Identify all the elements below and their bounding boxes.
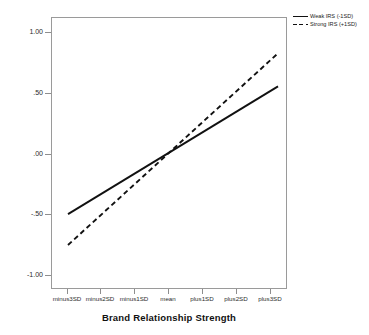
x-tick-mark — [134, 289, 135, 294]
legend-dashed-line-icon — [293, 21, 308, 27]
x-tick-mark — [270, 289, 271, 294]
legend-solid-line-icon — [293, 13, 308, 19]
plot-lines — [52, 18, 286, 288]
interaction-plot-figure: Ad Referral Acceptance 1.00 .50 .00 -.50… — [0, 0, 369, 335]
y-tick-label-2: .50 — [3, 89, 43, 96]
legend-label-weak-irs: Weak IRS (-1SD) — [310, 12, 353, 20]
y-tick-label-4: -.50 — [3, 210, 43, 217]
x-tick-mark — [236, 289, 237, 294]
legend-item-weak-irs: Weak IRS (-1SD) — [293, 12, 357, 20]
x-tick-mark — [202, 289, 203, 294]
y-tick-label-3: .00 — [3, 150, 43, 157]
x-tick-label-plus3sd: plus3SD — [247, 295, 293, 302]
x-axis-title: Brand Relationship Strength — [51, 312, 287, 323]
y-tick-label-1: 1.00 — [3, 28, 43, 35]
plot-area — [51, 17, 287, 289]
legend-label-strong-irs: Strong IRS (+1SD) — [310, 20, 357, 28]
y-tick-label-5: -1.00 — [3, 271, 43, 278]
x-tick-mark — [168, 289, 169, 294]
chart-legend: Weak IRS (-1SD) Strong IRS (+1SD) — [293, 12, 357, 28]
x-tick-mark — [100, 289, 101, 294]
series-line-weak-irs — [68, 86, 278, 214]
x-tick-mark — [67, 289, 68, 294]
legend-item-strong-irs: Strong IRS (+1SD) — [293, 20, 357, 28]
